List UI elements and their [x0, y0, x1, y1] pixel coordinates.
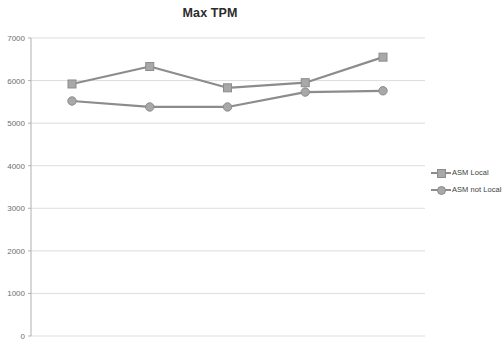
- data-point-marker: [68, 80, 76, 88]
- legend-marker-circle-icon: [431, 184, 451, 195]
- data-point-marker: [379, 87, 387, 95]
- data-point-marker: [223, 103, 231, 111]
- data-series-group: [68, 53, 387, 111]
- data-point-marker: [68, 97, 76, 105]
- legend-label: ASM Local: [451, 168, 489, 177]
- chart-container: Max TPM 70006000500040003000200010000 AS…: [0, 0, 503, 353]
- y-axis-tick-label: 1000: [7, 289, 25, 298]
- legend-marker-square-icon: [431, 167, 451, 178]
- y-axis-tick-label: 2000: [7, 247, 25, 256]
- legend-item-asm-not-local[interactable]: ASM not Local: [431, 181, 503, 198]
- data-point-marker: [301, 88, 309, 96]
- series-line: [72, 57, 383, 88]
- y-axis-tick-label: 7000: [7, 34, 25, 43]
- gridlines-group: [31, 38, 425, 336]
- data-point-marker: [224, 84, 232, 92]
- legend-item-asm-local[interactable]: ASM Local: [431, 164, 503, 181]
- y-axis-tick-label: 3000: [7, 204, 25, 213]
- data-point-marker: [146, 63, 154, 71]
- plot-area: 70006000500040003000200010000: [0, 0, 503, 353]
- y-axis-tick-labels: 70006000500040003000200010000: [7, 34, 31, 341]
- legend-label: ASM not Local: [451, 185, 501, 194]
- y-axis-tick-label: 4000: [7, 162, 25, 171]
- data-point-marker: [146, 103, 154, 111]
- y-axis-tick-label: 0: [21, 332, 26, 341]
- series-asm-local: [68, 53, 387, 92]
- chart-legend: ASM Local ASM not Local: [431, 164, 503, 198]
- y-axis-tick-label: 6000: [7, 77, 25, 86]
- y-axis-tick-label: 5000: [7, 119, 25, 128]
- data-point-marker: [301, 79, 309, 87]
- data-point-marker: [379, 53, 387, 61]
